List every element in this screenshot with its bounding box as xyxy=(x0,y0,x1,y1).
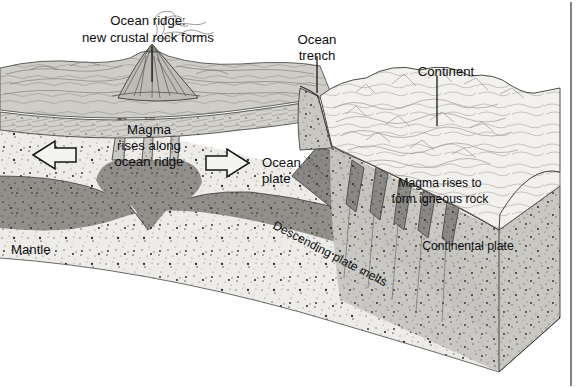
label-ocean-plate-line2: plate xyxy=(262,171,291,186)
diagram-canvas: Ocean ridge: new crustal rock forms Ocea… xyxy=(0,0,579,388)
label-magma-igneous-line1: Magma rises to xyxy=(398,176,482,190)
label-magma-ridge-line1: Magma xyxy=(127,122,172,137)
label-magma-igneous-line2: form igneous rock xyxy=(392,192,490,206)
label-ocean-trench-line1: Ocean xyxy=(298,32,337,47)
label-ocean-plate-line1: Ocean xyxy=(262,155,301,170)
label-continental-plate: Continental plate xyxy=(422,239,514,253)
label-magma-ridge-line3: ocean ridge xyxy=(115,154,184,169)
label-magma-ridge-line2: rises along xyxy=(117,138,181,153)
plate-tectonics-diagram: Ocean ridge: new crustal rock forms Ocea… xyxy=(0,0,579,388)
label-ocean-trench-line2: trench xyxy=(299,48,336,63)
label-continent: Continent xyxy=(418,64,475,79)
label-ocean-ridge-line1: Ocean ridge: xyxy=(110,13,186,28)
label-ocean-ridge-line2: new crustal rock forms xyxy=(82,30,214,45)
label-mantle: Mantle xyxy=(11,242,51,257)
